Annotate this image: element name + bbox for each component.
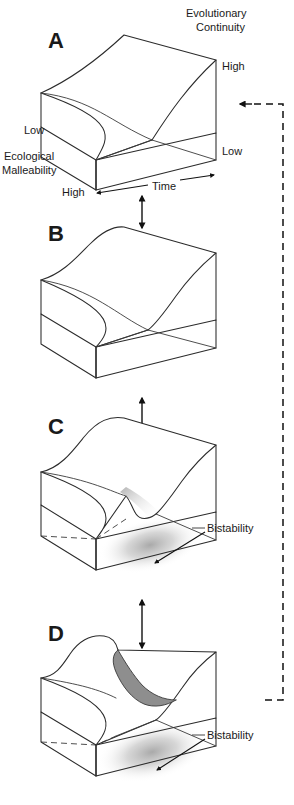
panel-d-hidden-edge: [41, 742, 96, 745]
panel-letter-a: A: [48, 28, 64, 53]
axis-label-time: Time: [152, 180, 176, 192]
panel-b-left-wall: [41, 314, 96, 378]
panel-letter-c: C: [48, 414, 64, 439]
panel-b-lip-right: [148, 330, 216, 348]
catastrophe-figure: A Evolutionary Continuity High Low Low E…: [0, 0, 294, 805]
axis-label-ecological-malleability-line2: Malleability: [2, 164, 57, 176]
panel-a: A Evolutionary Continuity High Low Low E…: [2, 7, 247, 198]
panel-a-lip-right: [152, 140, 216, 160]
panel-c-hidden-edge: [41, 536, 96, 539]
panel-d-bistability-label: Bistability: [207, 729, 254, 741]
axis-tick-depth-high: High: [222, 60, 245, 72]
axis-tick-vertical-high: High: [62, 186, 85, 198]
time-axis-rule-right: [180, 175, 214, 180]
panel-d-left-wall: [41, 712, 96, 776]
panel-c: C Bistability: [41, 414, 254, 583]
feedback-loop-path: [250, 104, 283, 700]
panel-b: B: [41, 221, 216, 378]
feedback-loop: [240, 104, 283, 700]
panel-c-bistability-label: Bistability: [207, 522, 254, 534]
axis-label-evolutionary-continuity-line1: Evolutionary: [186, 7, 247, 19]
axis-tick-depth-low: Low: [222, 145, 242, 157]
figure-canvas: A Evolutionary Continuity High Low Low E…: [0, 0, 294, 805]
panel-letter-b: B: [48, 221, 64, 246]
axis-label-evolutionary-continuity-line2: Continuity: [196, 21, 245, 33]
panel-letter-d: D: [48, 621, 64, 646]
axis-tick-vertical-low: Low: [24, 124, 44, 136]
panel-b-surface: [41, 227, 216, 347]
axis-label-ecological-malleability-line1: Ecological: [4, 150, 54, 162]
time-axis-rule-left: [97, 185, 148, 193]
panel-d: D Bistability: [41, 621, 254, 793]
panel-a-surface: [41, 35, 216, 160]
panel-c-left-wall: [41, 505, 96, 570]
